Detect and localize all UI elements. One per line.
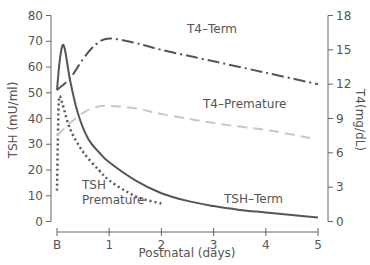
series-annotation: TSH (81, 178, 106, 192)
series-labels: T4–TermT4–PrematureTSHPrematureTSH–Term (81, 22, 286, 207)
x-tick-label: 5 (314, 238, 322, 252)
y-right-tick-label: 3 (336, 180, 344, 194)
y-left-tick-label: 80 (28, 9, 43, 23)
thyroid-hormone-chart: 010203040506070800369121518B12345 T4–Ter… (0, 0, 370, 265)
y-right-tick-label: 0 (336, 215, 344, 229)
y-left-tick-label: 60 (28, 60, 43, 74)
series-annotation: TSH–Term (223, 192, 283, 206)
series-t4-term (57, 38, 318, 90)
y-left-tick-label: 40 (28, 112, 43, 126)
series-annotation: T4–Term (186, 22, 237, 36)
x-tick-label: 1 (105, 238, 113, 252)
y-right-tick-label: 15 (336, 43, 351, 57)
y-right-tick-label: 18 (336, 9, 351, 23)
series-annotation: Premature (82, 193, 144, 207)
y-right-tick-label: 6 (336, 146, 344, 160)
x-tick-label: 4 (262, 238, 270, 252)
y-left-tick-label: 70 (28, 34, 43, 48)
y-axis-right-label: T4(mg/dL) (353, 88, 367, 151)
y-left-tick-label: 10 (28, 189, 43, 203)
y-left-tick-label: 0 (35, 215, 43, 229)
x-tick-label: B (53, 238, 61, 252)
y-left-tick-label: 20 (28, 163, 43, 177)
y-right-tick-label: 9 (336, 112, 344, 126)
y-axis-left-label: TSH (mU/ml) (6, 82, 20, 160)
y-left-tick-label: 50 (28, 86, 43, 100)
series-annotation: T4–Premature (202, 97, 286, 111)
x-axis-label: Postnatal (days) (139, 246, 236, 260)
series-tsh-premature (57, 96, 161, 204)
y-right-tick-label: 12 (336, 77, 351, 91)
y-left-tick-label: 30 (28, 137, 43, 151)
